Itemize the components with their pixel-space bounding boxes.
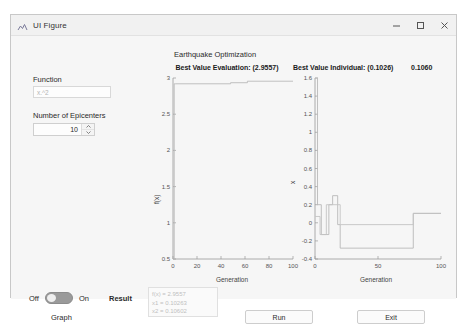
y-tick-label: 0.4 [304,184,313,190]
matlab-figure-icon [17,20,28,31]
window-controls [384,15,456,35]
toggle-on-label: On [79,294,89,303]
y-tick-label: 1.2 [304,111,313,117]
y-tick-label: 0.2 [304,202,313,208]
graph-label: Graph [51,313,72,322]
y-tick-label: 2 [167,147,171,153]
chart-title: Best Value Evaluation: (2.9557) [155,64,299,71]
y-tick-label: 1 [309,129,313,135]
y-tick-label: 0.6 [304,166,313,172]
y-tick-label: 1.4 [304,93,313,99]
client-area: Earthquake Optimization Function x.^2 Nu… [11,36,456,299]
close-icon[interactable] [432,15,456,35]
series-line [315,205,441,235]
toggle-knob[interactable] [47,294,56,302]
exit-button[interactable]: Exit [357,310,425,324]
toggle-track[interactable] [45,292,73,304]
series-line [173,81,293,259]
function-input[interactable]: x.^2 [33,86,111,98]
y-tick-label: 1 [167,220,171,226]
result-output: f(x) = 2.9557 x1 = 0.10263 x2 = 0.10602 [148,287,218,317]
plot-area: -0.4-0.200.20.40.60.811.21.41.6050100 [289,64,447,289]
series-line [315,78,441,248]
title-bar: UI Figure [11,15,456,36]
y-axis-label: x [289,181,296,184]
epicenters-value[interactable]: 10 [34,126,81,133]
graph-toggle[interactable]: Off On [29,292,89,304]
y-axis-label: f(x) [153,195,160,204]
x-axis-label: Generation [311,276,441,283]
y-tick-label: 0.8 [304,147,313,153]
section-title: Earthquake Optimization [174,50,256,59]
result-line: x2 = 0.10602 [152,307,214,316]
chart-best-value-evaluation: Best Value Evaluation: (2.9557) f(x) Gen… [151,64,299,289]
x-tick-label: 100 [436,263,447,269]
window-title: UI Figure [33,21,67,30]
y-tick-label: 3 [167,75,171,81]
run-button[interactable]: Run [245,310,313,324]
minimize-icon[interactable] [384,15,408,35]
spinner-arrows[interactable] [81,124,94,135]
y-tick-label: 1.5 [162,184,171,190]
x-tick-label: 0 [171,263,175,269]
y-tick-label: 0.5 [162,256,171,262]
epicenters-label: Number of Epicenters [33,111,106,120]
plot-area: 0.511.522.53020406080100 [151,64,299,289]
chart-title-extra: 0.1060 [411,64,467,71]
chart-best-value-individual: Best Value Individual: (0.1026) 0.1060 x… [289,64,447,289]
y-tick-label: 0 [309,220,313,226]
result-line: x1 = 0.10263 [152,299,214,308]
function-label: Function [33,75,62,84]
y-tick-label: 2.5 [162,111,171,117]
spinner-down-icon[interactable] [82,130,94,135]
y-tick-label: 1.6 [304,75,313,81]
x-tick-label: 20 [194,263,201,269]
maximize-icon[interactable] [408,15,432,35]
result-label: Result [109,294,132,303]
epicenters-spinner[interactable]: 10 [33,123,95,136]
ui-figure-window: UI Figure Earthquake Optimization Functi… [10,14,457,298]
y-tick-label: -0.4 [302,256,313,262]
x-tick-label: 40 [218,263,225,269]
toggle-off-label: Off [29,294,39,303]
x-tick-label: 60 [242,263,249,269]
x-tick-label: 80 [266,263,273,269]
x-tick-label: 50 [375,263,382,269]
result-line: f(x) = 2.9557 [152,290,214,299]
x-tick-label: 0 [313,263,317,269]
y-tick-label: -0.2 [302,238,313,244]
x-axis-label: Generation [169,276,295,283]
